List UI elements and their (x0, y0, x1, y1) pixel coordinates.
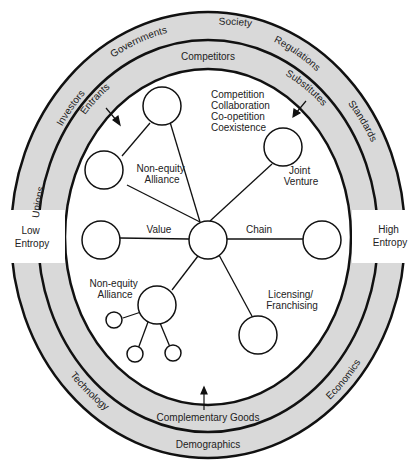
node-sub-1 (106, 312, 122, 328)
label-licensing: Licensing/ Franchising (266, 289, 318, 311)
node-top-left-alliance (85, 151, 123, 189)
node-value (82, 221, 120, 259)
node-bottom-alliance (138, 286, 176, 324)
entropy-strip (0, 210, 65, 263)
label-competitors: Competitors (181, 51, 235, 62)
label-chain: Chain (246, 224, 272, 235)
node-top (143, 87, 181, 125)
node-sub-2 (127, 346, 143, 362)
node-sub-3 (165, 345, 181, 361)
label-demographics: Demographics (176, 439, 240, 450)
node-joint-venture (264, 128, 302, 166)
modes-list: Competition Collaboration Co-opetition C… (211, 89, 273, 133)
node-center (189, 221, 227, 259)
node-chain (303, 221, 341, 259)
ecosystem-diagram: Unions Investors Governments Society Reg… (0, 0, 417, 465)
label-value: Value (147, 224, 172, 235)
label-complementary-goods: Complementary Goods (157, 412, 260, 423)
node-licensing (239, 316, 277, 354)
